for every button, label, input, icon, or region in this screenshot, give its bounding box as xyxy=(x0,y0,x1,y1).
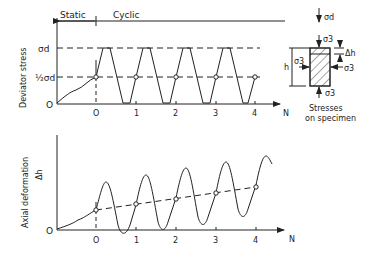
deviator-stress-chart xyxy=(57,16,285,104)
x-tick-3: 3 xyxy=(213,109,218,118)
cyclic-label: Cyclic xyxy=(113,10,140,20)
delta-h-label: Δh xyxy=(345,49,356,58)
sigma-3-top: σ3 xyxy=(323,35,333,44)
deviator-stress-ylabel: Deviator stress xyxy=(19,48,28,108)
sigma-3-left: σ3 xyxy=(294,57,304,66)
zero-tick-bottom: O xyxy=(46,226,53,236)
x-tick-1: 1 xyxy=(134,109,139,118)
cyclic-loading-diagram: Static Cyclic Deviator stress σd ½σd O O… xyxy=(0,0,389,254)
x-tick-0-bottom: O xyxy=(93,236,99,245)
half-sigma-d-tick: ½σd xyxy=(35,73,55,83)
n-axis-label: N xyxy=(283,109,289,118)
sigma-3-bottom: σ3 xyxy=(325,89,335,98)
static-curve xyxy=(57,77,96,103)
specimen-diagram xyxy=(289,8,344,98)
static-deformation-curve xyxy=(57,210,96,229)
x-tick-0: O xyxy=(93,109,99,118)
caption-line2: on specimen xyxy=(305,114,356,123)
delta-h-ylabel: Δh xyxy=(35,169,44,180)
x-tick-4-bottom: 4 xyxy=(253,236,258,245)
x-tick-3-bottom: 3 xyxy=(213,236,218,245)
n-axis-label-bottom: N xyxy=(289,235,295,244)
zero-tick: O xyxy=(46,100,53,110)
cyclic-deformation-curve xyxy=(96,156,272,233)
sigma-3-right: σ3 xyxy=(344,64,354,73)
x-tick-1-bottom: 1 xyxy=(134,236,139,245)
axial-deformation-ylabel: Axial deformation xyxy=(21,157,30,228)
x-tick-4: 4 xyxy=(252,109,257,118)
x-tick-2: 2 xyxy=(173,109,178,118)
caption-line1: Stresses xyxy=(309,104,343,113)
sigma-d-tick: σd xyxy=(38,44,49,54)
h-label: h xyxy=(284,63,289,72)
static-label: Static xyxy=(60,10,86,20)
sigma-d-load: σd xyxy=(324,13,334,22)
axial-deformation-chart xyxy=(57,135,284,233)
x-tick-2-bottom: 2 xyxy=(173,236,178,245)
